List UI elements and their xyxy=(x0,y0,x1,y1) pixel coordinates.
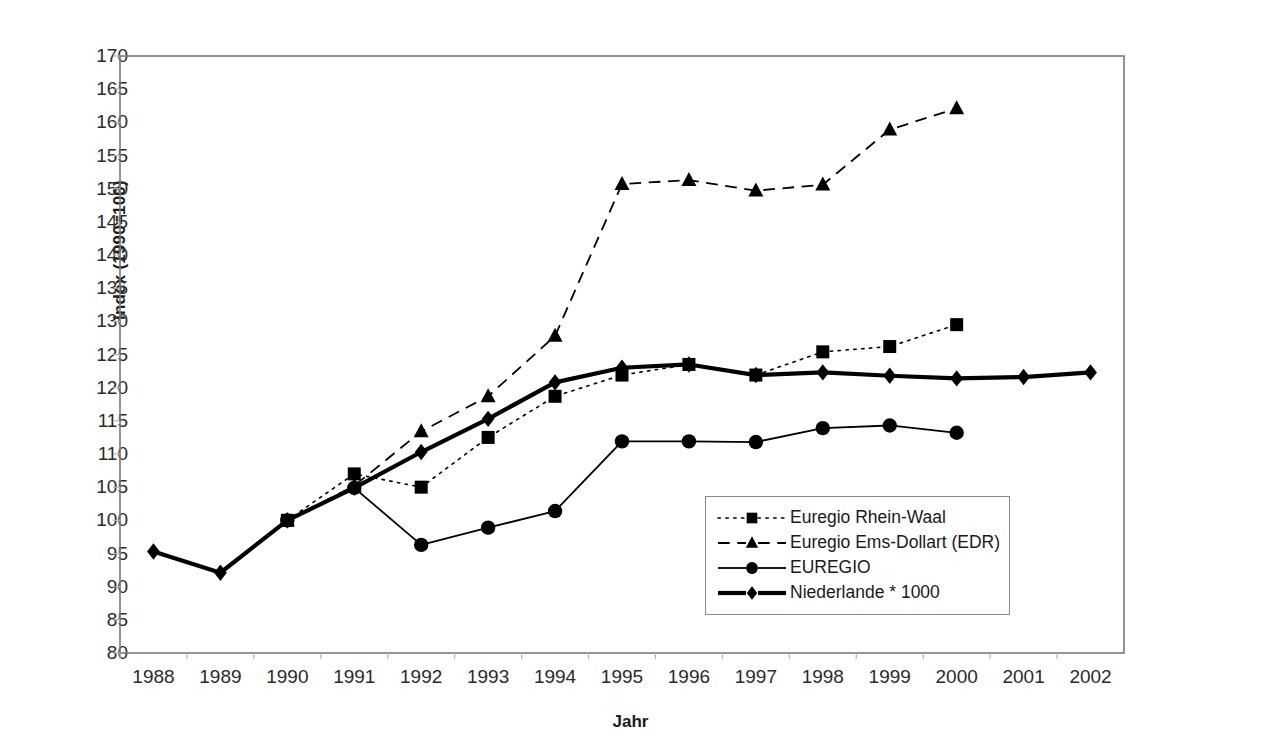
legend-item-label: Euregio Ems-Dollart (EDR) xyxy=(788,532,1000,553)
legend-item-label: Niederlande * 1000 xyxy=(788,582,940,603)
legend-item-label: EUREGIO xyxy=(788,557,871,578)
legend-item-label: Euregio Rhein-Waal xyxy=(788,507,946,528)
legend: Euregio Rhein-WaalEuregio Ems-Dollart (E… xyxy=(705,496,1010,615)
plot-area xyxy=(0,0,1261,751)
solid-circle-key xyxy=(716,557,788,579)
legend-item[interactable]: EUREGIO xyxy=(716,555,999,580)
series-2 xyxy=(280,100,964,526)
line-chart: Index (1990=100) Jahr 170165160155150145… xyxy=(0,0,1261,751)
legend-item[interactable]: Euregio Rhein-Waal xyxy=(716,505,999,530)
legend-item[interactable]: Niederlande * 1000 xyxy=(716,580,999,605)
bold-diamond-key xyxy=(716,582,788,604)
dotted-square-key xyxy=(716,507,788,529)
legend-item[interactable]: Euregio Ems-Dollart (EDR) xyxy=(716,530,999,555)
dashed-triangle-key xyxy=(716,532,788,554)
